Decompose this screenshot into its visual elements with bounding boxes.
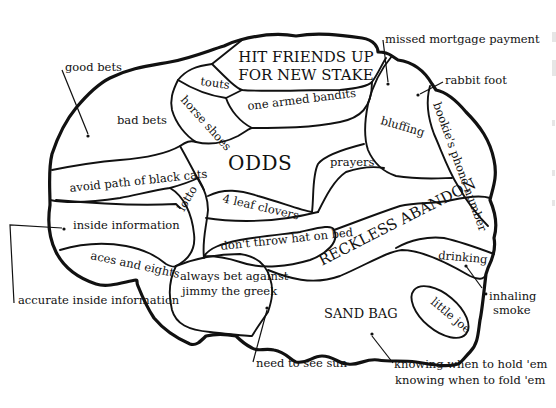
callout-smoke: smoke (493, 303, 531, 317)
callout-accurate-inside-info: accurate inside information (18, 293, 180, 307)
label-sand-bag: SAND BAG (324, 306, 398, 321)
label-touts: touts (200, 74, 231, 92)
label-hit-friends-2: FOR NEW STAKE (238, 66, 373, 84)
brain-diagram: HIT FRIENDS UP FOR NEW STAKE touts horse… (0, 0, 556, 408)
label-bluffing: bluffing (379, 113, 427, 139)
callout-inhaling: inhaling (489, 289, 537, 303)
label-bookies-phone-number: bookie's phone number (430, 100, 490, 233)
callout-missed-mortgage: missed mortgage payment (385, 32, 540, 46)
label-jimmy-2: jimmy the greek (180, 284, 278, 298)
callout-hold-em: knowing when to hold 'em (394, 357, 548, 371)
label-prayers: prayers (330, 155, 375, 169)
label-odds: ODDS (228, 151, 292, 175)
label-aces-and-eights: aces and eights (89, 248, 181, 281)
scan-artifacts (552, 32, 556, 206)
label-jimmy-1: always bet against (180, 269, 289, 283)
callout-rabbit-foot: rabbit foot (445, 73, 507, 87)
label-hit-friends-1: HIT FRIENDS UP (238, 48, 373, 66)
callout-need-to-see-sun: need to see sun (256, 356, 348, 370)
label-inside-information: inside information (73, 218, 180, 232)
label-lotto: lotto (174, 183, 200, 213)
callout-fold-em: knowing when to fold 'em (395, 373, 545, 387)
label-bad-bets: bad bets (117, 113, 167, 127)
callout-good-bets: good bets (65, 60, 122, 74)
